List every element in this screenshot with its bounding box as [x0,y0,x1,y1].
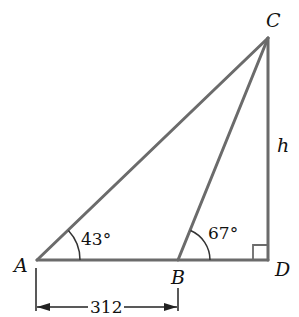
angle-arc-A [68,231,80,260]
angle-label-A: 43° [81,229,111,249]
arrowhead-left-icon [37,303,50,311]
triangle-diagram: A B C D 43° 67° 312 h [0,0,299,317]
angle-label-B: 67° [208,223,238,243]
length-label-AB: 312 [90,297,122,317]
right-angle-marker [253,245,268,260]
point-label-D: D [274,258,290,280]
point-label-B: B [170,266,185,288]
point-label-C: C [266,9,281,31]
point-label-A: A [12,254,28,276]
arrowhead-right-icon [164,303,177,311]
height-label-h: h [277,134,289,156]
